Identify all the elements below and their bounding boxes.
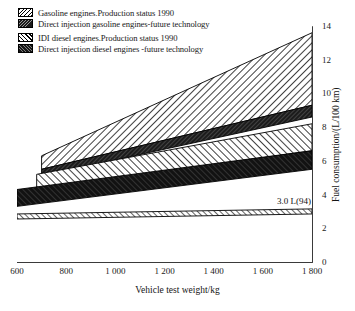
x-tick-label-1400: 1 400 <box>204 266 224 276</box>
data-bands <box>17 33 312 219</box>
y-tick-label-12: 12 <box>322 55 331 65</box>
x-tick-label-800: 800 <box>59 266 73 276</box>
y-tick-label-14: 14 <box>322 21 331 31</box>
band-three_litre_band <box>17 209 312 219</box>
y-tick-label-10: 10 <box>322 88 331 98</box>
y-tick-label-4: 4 <box>322 190 327 200</box>
x-tick-label-1600: 1 600 <box>253 266 273 276</box>
legend-item-gasoline-1990: Gasoline engines.Production status 1990 <box>18 7 268 18</box>
legend-swatch-gasoline-1990-icon <box>18 8 33 17</box>
y-tick-label-2: 2 <box>322 223 327 233</box>
x-axis-title: Vehicle test weight/kg <box>0 285 355 295</box>
fuel-consumption-chart: Gasoline engines.Production status 1990 … <box>0 0 355 311</box>
x-tick-label-600: 600 <box>10 266 24 276</box>
y-tick-label-0: 0 <box>322 257 327 267</box>
y-tick-label-6: 6 <box>322 156 327 166</box>
x-tick-label-1200: 1 200 <box>154 266 174 276</box>
annotation-three-litre: 3.0 L(94) <box>277 196 311 206</box>
x-tick-label-1800: 1 800 <box>302 266 322 276</box>
plot-svg <box>17 26 313 263</box>
y-tick-label-8: 8 <box>322 122 327 132</box>
y-axis-title: Fuel consumption/(L/100 km) <box>331 87 341 202</box>
legend-label-gasoline-1990: Gasoline engines.Production status 1990 <box>38 8 174 18</box>
x-tick-label-1000: 1 000 <box>105 266 125 276</box>
plot-area <box>17 26 313 263</box>
